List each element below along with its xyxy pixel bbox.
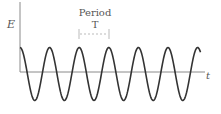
period-label: Period	[79, 7, 112, 18]
wave-diagram: E t Period T	[0, 0, 221, 114]
y-axis-label: E	[6, 18, 15, 31]
period-bracket	[79, 29, 109, 39]
wave-curve	[20, 48, 201, 101]
x-axis-label: t	[206, 70, 211, 81]
period-symbol: T	[92, 19, 99, 30]
